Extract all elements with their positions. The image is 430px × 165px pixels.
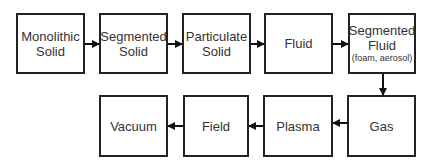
edges-layer <box>0 0 430 165</box>
